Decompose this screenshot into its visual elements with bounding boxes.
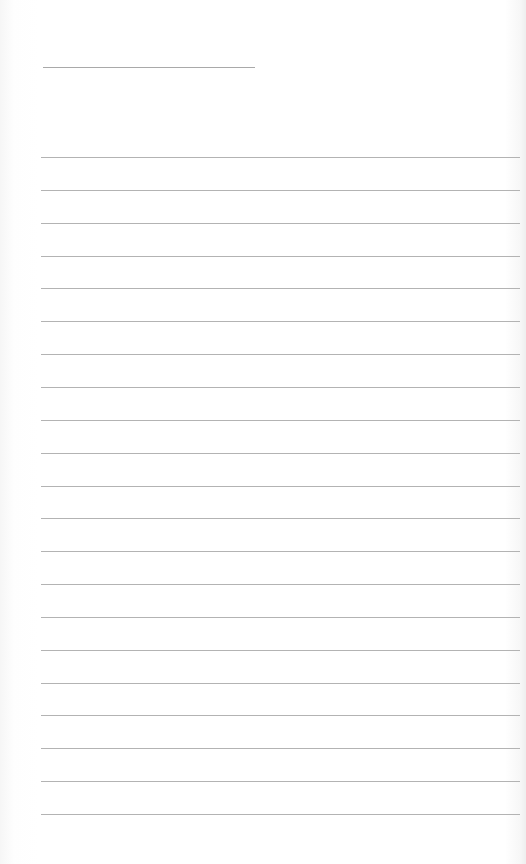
- ruled-line: [41, 486, 520, 487]
- lined-paper-page: [0, 0, 526, 864]
- ruled-line: [41, 387, 520, 388]
- ruled-line: [41, 584, 520, 585]
- ruled-line: [41, 321, 520, 322]
- ruled-line: [41, 781, 520, 782]
- ruled-line: [41, 420, 520, 421]
- ruled-line: [41, 223, 520, 224]
- title-underline: [43, 67, 255, 68]
- ruled-line: [41, 518, 520, 519]
- ruled-line: [41, 288, 520, 289]
- ruled-line: [41, 551, 520, 552]
- ruled-line: [41, 354, 520, 355]
- ruled-line: [41, 453, 520, 454]
- ruled-line: [41, 814, 520, 815]
- ruled-line: [41, 190, 520, 191]
- ruled-line: [41, 157, 520, 158]
- ruled-line: [41, 683, 520, 684]
- ruled-line: [41, 748, 520, 749]
- ruled-line: [41, 617, 520, 618]
- ruled-line: [41, 650, 520, 651]
- ruled-line: [41, 715, 520, 716]
- ruled-line: [41, 256, 520, 257]
